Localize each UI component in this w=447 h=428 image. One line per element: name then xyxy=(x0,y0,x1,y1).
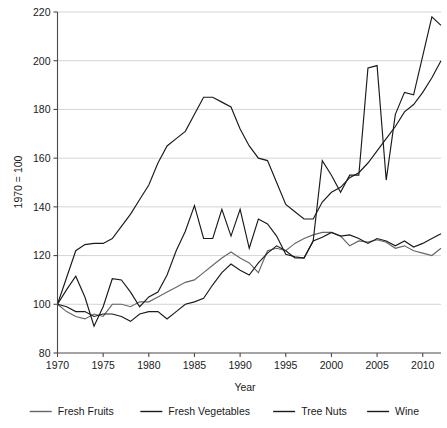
y-tick-label: 180 xyxy=(33,103,51,115)
series-group xyxy=(58,17,442,326)
x-tick-label: 1990 xyxy=(228,359,252,371)
legend: Fresh FruitsFresh VegetablesTree NutsWin… xyxy=(30,405,419,417)
gridlines-group xyxy=(58,12,442,304)
x-axis-title: Year xyxy=(234,381,256,393)
y-tick-label: 100 xyxy=(33,298,51,310)
y-tick-label: 200 xyxy=(33,55,51,67)
x-tick-label: 1980 xyxy=(137,359,161,371)
y-tick-label: 120 xyxy=(33,249,51,261)
series-line-tree-nuts xyxy=(58,17,442,326)
x-tick-label: 2005 xyxy=(365,359,389,371)
x-tick-label: 1970 xyxy=(46,359,70,371)
x-axis-ticks: 197019751980198519901995200020052010 xyxy=(46,353,435,371)
legend-label-tree-nuts: Tree Nuts xyxy=(301,405,347,417)
legend-label-fresh-vegetables: Fresh Vegetables xyxy=(168,405,250,417)
x-tick-label: 2000 xyxy=(320,359,344,371)
x-tick-label: 2010 xyxy=(411,359,435,371)
series-line-wine xyxy=(58,61,442,305)
legend-label-wine: Wine xyxy=(395,405,419,417)
x-tick-label: 1995 xyxy=(274,359,298,371)
y-tick-label: 80 xyxy=(39,347,51,359)
line-chart: 80100120140160180200220 1970197519801985… xyxy=(0,0,447,428)
legend-label-fresh-fruits: Fresh Fruits xyxy=(58,405,114,417)
y-axis-title: 1970 = 100 xyxy=(12,155,24,208)
chart-canvas: 80100120140160180200220 1970197519801985… xyxy=(0,0,447,428)
y-tick-label: 140 xyxy=(33,201,51,213)
x-tick-label: 1975 xyxy=(91,359,115,371)
y-tick-label: 160 xyxy=(33,152,51,164)
y-axis-ticks: 80100120140160180200220 xyxy=(33,6,58,359)
y-tick-label: 220 xyxy=(33,6,51,18)
x-tick-label: 1985 xyxy=(183,359,207,371)
